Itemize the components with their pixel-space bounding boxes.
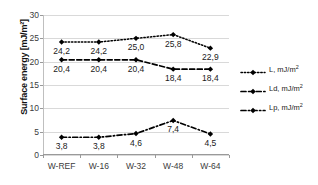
legend-marker-icon [250, 108, 255, 113]
data-point-label: 4,5 [204, 138, 216, 148]
data-point-marker [133, 57, 138, 62]
y-axis-tick-label: 10 [30, 103, 39, 113]
legend-marker-icon [250, 89, 255, 94]
data-point-marker [208, 131, 213, 136]
y-axis-tick-label: 0 [34, 150, 39, 160]
data-point-label: 24,2 [53, 46, 70, 56]
data-point-label: 7,4 [167, 124, 179, 134]
legend-item[interactable]: Lp, mJ/m2 [240, 98, 318, 117]
x-axis-tick-label: W-64 [200, 161, 220, 171]
data-point-marker [208, 45, 213, 50]
gridline [43, 155, 229, 156]
data-point-marker [96, 57, 101, 62]
x-axis-tick-label: W-REF [48, 161, 76, 171]
legend-item[interactable]: L, mJ/m2 [240, 60, 318, 79]
data-point-marker [96, 39, 101, 44]
data-point-label: 20,4 [53, 64, 70, 74]
x-axis-tick-mark [192, 155, 193, 158]
data-point-marker [171, 32, 176, 37]
data-point-marker [171, 118, 176, 123]
y-axis-tick-label: 5 [34, 127, 39, 137]
legend-line-sample [240, 102, 266, 113]
y-axis-tick-label: 20 [30, 57, 39, 67]
y-axis-tick-label: 15 [30, 80, 39, 90]
data-point-label: 18,4 [202, 73, 219, 83]
data-point-label: 24,2 [91, 46, 108, 56]
data-point-marker [133, 131, 138, 136]
data-point-marker [59, 135, 64, 140]
data-point-label: 25,0 [128, 42, 145, 52]
x-axis-tick-mark [80, 155, 81, 158]
legend-label: Ld, mJ/m2 [269, 84, 303, 93]
y-axis-title-text: Surface energy [mJ/m²] [19, 19, 29, 115]
data-point-marker [96, 135, 101, 140]
data-point-marker [133, 36, 138, 41]
data-point-label: 20,4 [91, 64, 108, 74]
y-axis-title: Surface energy [mJ/m²] [19, 0, 29, 137]
data-point-marker [171, 66, 176, 71]
x-axis-tick-mark [43, 155, 44, 158]
surface-energy-line-chart: Surface energy [mJ/m²] 051015202530 W-RE… [0, 0, 318, 185]
data-point-marker [59, 57, 64, 62]
data-point-label: 4,6 [130, 138, 142, 148]
data-point-label: 3,8 [93, 141, 105, 151]
y-axis-tick-label: 25 [30, 33, 39, 43]
data-point-marker [208, 66, 213, 71]
x-axis-tick-mark [155, 155, 156, 158]
data-point-label: 25,8 [165, 39, 182, 49]
data-point-label: 3,8 [56, 141, 68, 151]
x-axis-tick-label: W-16 [89, 161, 109, 171]
x-axis-tick-mark [117, 155, 118, 158]
legend-label: Lp, mJ/m2 [269, 103, 303, 112]
data-point-label: 22,9 [202, 52, 219, 62]
data-point-label: 18,4 [165, 73, 182, 83]
legend-line-sample [240, 83, 266, 94]
legend-item[interactable]: Ld, mJ/m2 [240, 79, 318, 98]
data-point-marker [59, 39, 64, 44]
legend: L, mJ/m2Ld, mJ/m2Lp, mJ/m2 [240, 60, 318, 117]
x-axis-tick-label: W-48 [163, 161, 183, 171]
x-axis-tick-label: W-32 [126, 161, 146, 171]
series-lines [43, 15, 229, 155]
legend-marker-icon [250, 70, 255, 75]
y-axis-tick-label: 30 [30, 10, 39, 20]
data-point-label: 20,4 [128, 64, 145, 74]
plot-area: 051015202530 W-REFW-16W-32W-48W-64 24,22… [43, 15, 229, 155]
x-axis-tick-mark [229, 155, 230, 158]
legend-label: L, mJ/m2 [269, 65, 299, 74]
legend-line-sample [240, 64, 266, 75]
